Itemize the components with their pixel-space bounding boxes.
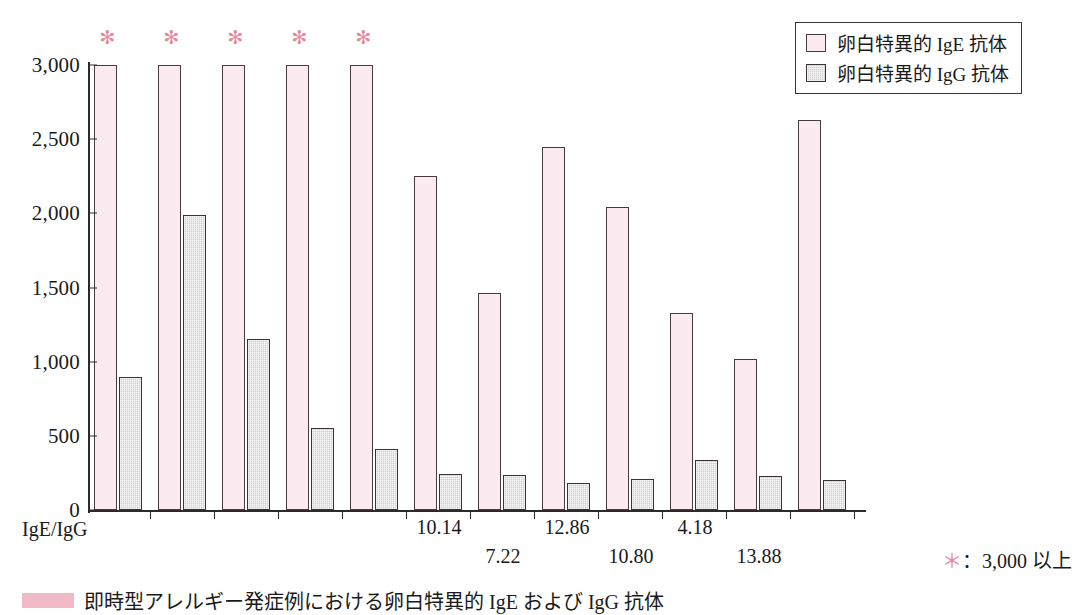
bar-group: [734, 65, 782, 510]
x-axis-tick: [214, 510, 215, 519]
ratio-label: 7.22: [486, 545, 521, 568]
footnote-star-icon: ＊: [942, 549, 962, 573]
bar-ige: [670, 313, 693, 510]
bar-ige: [798, 120, 821, 510]
bar-group: [478, 65, 526, 510]
y-axis-tick-mark: [88, 435, 97, 436]
legend-item-igg: 卵白特異的 IgG 抗体: [806, 59, 1009, 86]
bar-igg: [183, 215, 206, 510]
y-axis-tick-mark: [88, 361, 97, 362]
x-axis-tick: [470, 510, 471, 519]
bar-igg: [439, 474, 462, 510]
bar-group: [670, 65, 718, 510]
figure-caption: 即時型アレルギー発症例における卵白特異的 IgE および IgG 抗体: [22, 586, 664, 615]
y-axis-tick-label: 3,000: [32, 53, 80, 78]
x-axis-tick: [790, 510, 791, 519]
bar-igg: [567, 483, 590, 510]
x-axis-tick: [726, 510, 727, 519]
asterisk-annotation: ✻: [164, 28, 180, 47]
bar-ige: [606, 207, 629, 510]
x-axis-tick: [598, 510, 599, 519]
x-axis-tick: [854, 510, 855, 519]
bar-igg: [375, 449, 398, 510]
bar-ige: [350, 65, 373, 510]
bar-group: [350, 65, 398, 510]
bar-igg: [503, 475, 526, 510]
legend-item-ige: 卵白特異的 IgE 抗体: [806, 29, 1009, 56]
x-axis-tick: [662, 510, 663, 519]
bar-group: [606, 65, 654, 510]
bar-group: [94, 65, 142, 510]
bar-igg: [695, 460, 718, 510]
bar-igg: [119, 377, 142, 511]
bar-group: [414, 65, 462, 510]
bar-ige: [222, 65, 245, 510]
legend-label-ige: 卵白特異的 IgE 抗体: [837, 29, 1007, 56]
asterisk-annotation: ✻: [292, 28, 308, 47]
y-axis-labels: 3,0002,5002,0001,5001,0005000: [0, 0, 80, 599]
chart-legend: 卵白特異的 IgE 抗体 卵白特異的 IgG 抗体: [795, 22, 1022, 94]
footnote: ＊：3,000 以上: [942, 545, 1072, 574]
x-axis-line: [88, 510, 866, 512]
ratio-label: 4.18: [678, 516, 713, 539]
bar-group: [286, 65, 334, 510]
y-axis-tick-label: 1,500: [32, 275, 80, 300]
asterisk-annotation: ✻: [100, 28, 116, 47]
x-axis-tick: [406, 510, 407, 519]
bar-ige: [414, 176, 437, 510]
ratio-label: 13.88: [737, 545, 782, 568]
legend-swatch-ige: [806, 34, 826, 52]
bar-ige: [286, 65, 309, 510]
bar-igg: [823, 480, 846, 510]
bar-group: [222, 65, 270, 510]
bar-ige: [158, 65, 181, 510]
bar-igg: [759, 476, 782, 510]
bar-group: [798, 65, 846, 510]
bar-group: [542, 65, 590, 510]
y-axis-tick-mark: [88, 510, 97, 511]
x-axis-tick: [278, 510, 279, 519]
caption-marker: [22, 593, 74, 608]
bar-ige: [94, 65, 117, 510]
ratio-label: 12.86: [545, 516, 590, 539]
footnote-text: ：3,000 以上: [962, 550, 1072, 572]
x-axis-title: IgE/IgG: [22, 518, 88, 541]
x-axis-tick: [534, 510, 535, 519]
ratio-label: 10.14: [417, 516, 462, 539]
bar-igg: [247, 339, 270, 510]
x-axis-tick: [342, 510, 343, 519]
y-axis-tick-mark: [88, 139, 97, 140]
y-axis-tick-label: 2,500: [32, 127, 80, 152]
y-axis-tick-mark: [88, 65, 97, 66]
y-axis-tick-mark: [88, 213, 97, 214]
bar-ige: [542, 147, 565, 510]
ratio-label: 10.80: [609, 545, 654, 568]
plot-area: [88, 65, 863, 510]
bar-ige: [478, 293, 501, 510]
bar-ige: [734, 359, 757, 510]
y-axis-tick-mark: [88, 287, 97, 288]
asterisk-annotation: ✻: [356, 28, 372, 47]
legend-label-igg: 卵白特異的 IgG 抗体: [837, 59, 1009, 86]
bar-igg: [311, 428, 334, 510]
bar-igg: [631, 479, 654, 510]
y-axis-tick-label: 500: [48, 423, 80, 448]
x-axis-tick: [150, 510, 151, 519]
caption-text: 即時型アレルギー発症例における卵白特異的 IgE および IgG 抗体: [84, 586, 664, 615]
y-axis-tick-label: 2,000: [32, 201, 80, 226]
bar-group: [158, 65, 206, 510]
asterisk-annotation: ✻: [228, 28, 244, 47]
y-axis-tick-label: 1,000: [32, 349, 80, 374]
legend-swatch-igg: [806, 64, 826, 82]
